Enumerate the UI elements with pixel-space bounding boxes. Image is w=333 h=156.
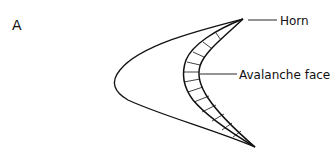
barchan-dune-diagram: A Horn Avalanche face bbox=[0, 0, 333, 156]
horn-label: Horn bbox=[280, 14, 309, 28]
panel-label: A bbox=[12, 17, 22, 33]
avalanche-face-hatching bbox=[184, 33, 241, 137]
slip-face-line bbox=[199, 19, 255, 147]
avalanche-face-label: Avalanche face bbox=[239, 68, 330, 82]
